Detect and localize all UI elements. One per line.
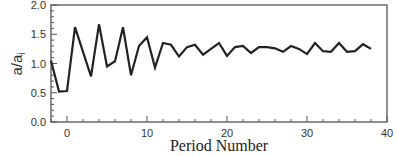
y-axis: 0.00.51.01.52.0 [31,0,57,128]
x-axis: 010203040 [51,116,393,139]
x-tick-label: 30 [301,127,313,139]
line-chart: 0.00.51.01.52.0 010203040 Period Number … [0,0,397,156]
y-tick-label: 0.5 [31,87,46,99]
y-tick-label: 1.5 [31,28,46,40]
y-tick-label: 2.0 [31,0,46,11]
y-tick-label: 0.0 [31,116,46,128]
x-tick-label: 40 [381,127,393,139]
x-tick-label: 10 [141,127,153,139]
data-line [51,24,371,91]
x-axis-label: Period Number [170,137,269,154]
y-tick-label: 1.0 [31,58,46,70]
plot-frame [51,5,387,122]
y-axis-label: a/ai [8,52,27,75]
x-tick-label: 0 [64,127,70,139]
plot-border [51,5,387,122]
